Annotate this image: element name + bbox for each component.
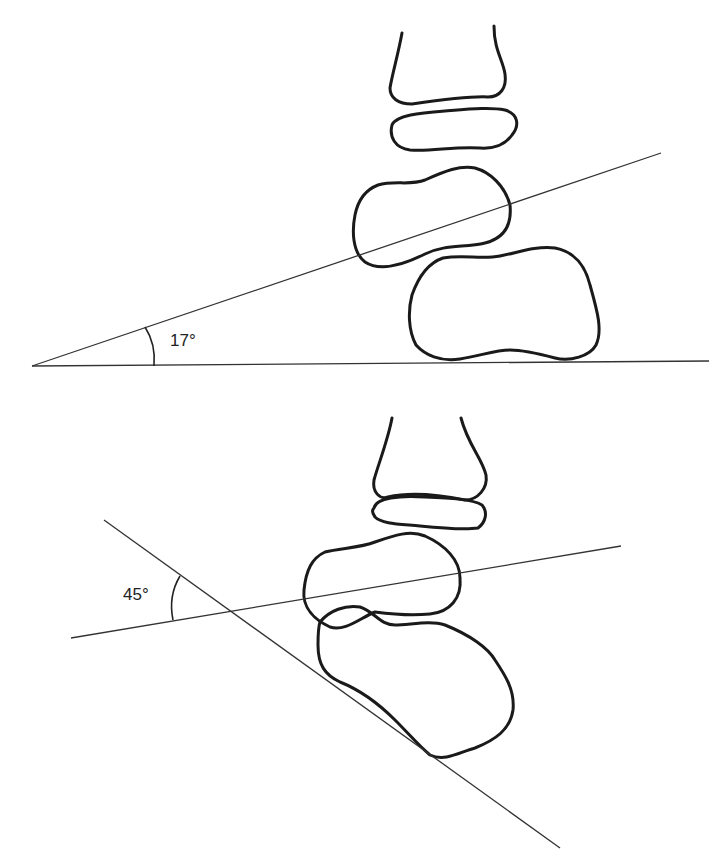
- bottom-panel: [71, 418, 621, 848]
- top-panel: [32, 26, 709, 366]
- top-angle-arc: [145, 327, 154, 366]
- top-proximal-bone: [390, 26, 505, 104]
- top-middle-bone: [353, 167, 510, 266]
- top-angle-line: [32, 153, 661, 366]
- bottom-angle-label: 45°: [123, 585, 149, 605]
- top-disc-bone: [391, 108, 516, 150]
- bottom-lower-bone: [318, 607, 513, 758]
- top-angle-label: 17°: [170, 331, 196, 351]
- bottom-disc-bone: [373, 496, 486, 528]
- bottom-proximal-bone: [374, 418, 487, 500]
- bottom-angle-arc: [172, 576, 180, 620]
- top-lower-bone: [409, 248, 599, 360]
- bottom-upper-line: [71, 546, 621, 638]
- diagram-canvas: [0, 0, 725, 866]
- bottom-diagonal-line: [104, 520, 560, 848]
- top-base-line: [32, 361, 709, 366]
